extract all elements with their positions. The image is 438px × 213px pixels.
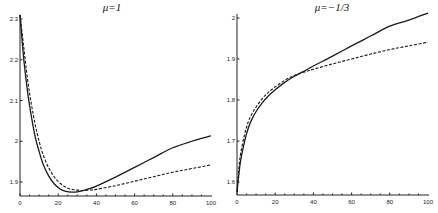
y-tick-label: 2.1: [10, 98, 19, 104]
figure: μ=1 1.922.12.22.3 020406080100 μ=−1/3 1.…: [0, 0, 438, 213]
y-tick-label: 2.3: [10, 16, 19, 22]
y-tick-label: 1.7: [227, 138, 236, 144]
x-tick-label: 0: [18, 200, 22, 206]
solid-curve: [20, 15, 211, 192]
y-tick-labels: 1.61.71.81.92: [227, 15, 240, 185]
y-tick-label: 1.9: [227, 56, 236, 62]
x-tick-label: 20: [272, 199, 279, 205]
y-tick-label: 2: [15, 138, 19, 144]
cropped-caption-strip: [0, 0, 438, 3]
dashed-curve: [237, 42, 428, 192]
x-tick-label: 40: [93, 200, 100, 206]
x-tick-label: 80: [169, 200, 176, 206]
solid-curve: [237, 13, 428, 192]
dashed-curve: [20, 15, 211, 191]
y-tick-label: 2: [232, 15, 236, 21]
x-tick-label: 20: [55, 200, 62, 206]
x-tick-label: 80: [386, 199, 393, 205]
y-tick-label: 1.8: [227, 97, 236, 103]
chart-panel-right: μ=−1/3 1.61.71.81.92 020406080100: [227, 1, 434, 205]
chart-panel-left: μ=1 1.922.12.22.3 020406080100: [10, 1, 217, 206]
x-tick-label: 0: [235, 199, 239, 205]
x-tick-label: 100: [206, 200, 217, 206]
x-tick-labels: 020406080100: [18, 194, 216, 207]
y-tick-label: 1.6: [227, 179, 236, 185]
x-tick-label: 60: [348, 199, 355, 205]
y-tick-label: 1.9: [10, 179, 19, 185]
x-tick-labels: 020406080100: [235, 193, 433, 206]
x-tick-label: 40: [310, 199, 317, 205]
x-tick-label: 100: [423, 199, 434, 205]
y-tick-labels: 1.922.12.22.3: [10, 16, 23, 185]
y-tick-label: 2.2: [10, 57, 19, 63]
x-tick-label: 60: [131, 200, 138, 206]
